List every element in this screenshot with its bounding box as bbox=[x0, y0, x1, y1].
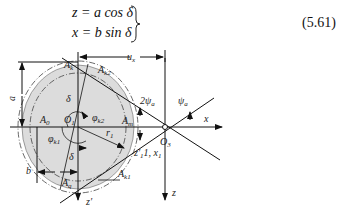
label-psi: ψa bbox=[178, 95, 188, 108]
label-ux: ux bbox=[127, 51, 136, 64]
label-delta-bottom: δ bbox=[69, 151, 74, 162]
label-delta-top: δ bbox=[66, 93, 71, 104]
label-z: z bbox=[171, 187, 176, 198]
label-o3: O3 bbox=[160, 136, 171, 149]
label-ak1: Ak1 bbox=[117, 168, 131, 181]
label-x: x bbox=[203, 113, 209, 124]
label-z-prime: z′ bbox=[85, 196, 93, 207]
label-b: b bbox=[26, 165, 31, 176]
label-a: a bbox=[6, 96, 17, 101]
point-o3 bbox=[163, 125, 168, 130]
geometry-diagram: ux Ak Ak2 a δ O1 φk2 A0 Am 2ψa ψa x O3 r… bbox=[0, 0, 358, 214]
label-two-psi: 2ψa bbox=[140, 95, 155, 108]
label-z1-x1: z′11, x1 bbox=[133, 147, 162, 160]
